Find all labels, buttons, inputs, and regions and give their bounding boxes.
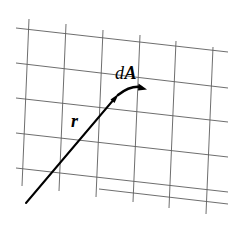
grid-line-vertical — [59, 24, 66, 191]
label-dA-differential: d — [115, 63, 125, 83]
label-r: r — [71, 112, 78, 130]
label-dA-vector-symbol: A — [125, 63, 137, 83]
figure-container: dA r — [0, 0, 233, 227]
grid-line-horizontal — [99, 189, 228, 204]
grid-line-horizontal — [16, 98, 228, 122]
grid-line-horizontal — [16, 133, 228, 157]
position-vector-r — [26, 94, 119, 204]
grid-line-vertical — [22, 19, 29, 186]
surface-grid — [16, 19, 228, 214]
label-r-vector-symbol: r — [71, 111, 78, 131]
grid-line-vertical — [169, 41, 176, 208]
grid-line-horizontal — [16, 168, 228, 192]
area-element-vector-dA-arrowhead — [138, 84, 147, 91]
area-element-vector-dA — [118, 84, 147, 96]
grid-line-vertical — [206, 47, 213, 214]
grid-line-vertical — [133, 35, 140, 202]
vector-diagram-canvas — [0, 0, 233, 227]
label-dA: dA — [115, 64, 137, 82]
grid-line-horizontal — [16, 28, 228, 52]
grid-vertical-lines — [22, 19, 213, 214]
